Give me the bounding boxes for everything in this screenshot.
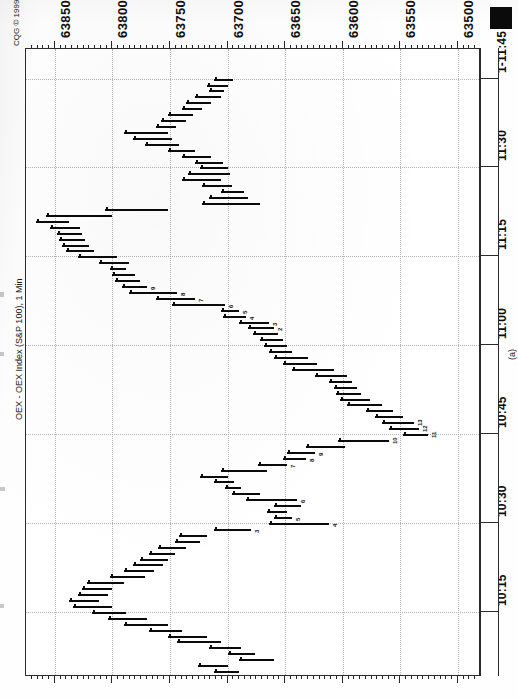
price-tick-minor (267, 45, 268, 48)
bottom-tick-major (342, 676, 343, 683)
price-tick-label: 63550 (404, 0, 417, 38)
price-bar (78, 594, 108, 596)
price-bar (46, 215, 113, 217)
td-count-label: 9 (150, 287, 156, 290)
price-tick-minor (428, 45, 429, 48)
bottom-tick-minor (313, 676, 314, 679)
bottom-tick-minor (445, 676, 446, 679)
price-tick-minor (451, 45, 452, 48)
price-bar (221, 470, 267, 472)
price-bar (246, 499, 297, 501)
price-bar (158, 547, 186, 549)
price-bar (122, 286, 147, 288)
price-bar (82, 588, 112, 590)
price-tick-minor (278, 45, 279, 48)
gridline-price (112, 49, 113, 675)
price-bar (133, 564, 163, 566)
price-bar (175, 541, 200, 543)
price-tick-label: 63600 (347, 0, 360, 38)
price-bar-open-tick (169, 148, 171, 151)
bottom-tick-minor (88, 676, 89, 679)
bottom-tick-minor (123, 676, 124, 679)
price-bar (59, 239, 84, 241)
price-bar-open-tick (173, 302, 175, 305)
price-bar (161, 120, 186, 122)
price-bar-open-tick (157, 124, 159, 127)
registration-marker (490, 7, 512, 29)
bottom-tick-minor (221, 676, 222, 679)
gridline-price (343, 49, 344, 675)
td-count-label: 4 (332, 524, 338, 527)
price-bar-open-tick (51, 225, 53, 228)
price-bar (209, 197, 248, 199)
price-tick-major (169, 41, 170, 48)
bottom-tick-major (284, 676, 285, 683)
price-tick-minor (221, 45, 222, 48)
price-bar (168, 636, 207, 638)
td-count-label: 11 (431, 432, 437, 438)
price-bar (375, 416, 403, 418)
price-tick-minor (117, 45, 118, 48)
td-count-label: 10 (392, 437, 398, 444)
price-bar-open-tick (203, 201, 205, 204)
price-bar-open-tick (376, 414, 378, 417)
price-bar (389, 428, 419, 430)
price-tick-major (111, 41, 112, 48)
bottom-tick-minor (417, 676, 418, 679)
scan-artifact (0, 487, 5, 491)
price-tick-minor (106, 45, 107, 48)
price-bar-open-tick (169, 112, 171, 115)
price-tick-minor (175, 45, 176, 48)
price-bar-open-tick (74, 604, 76, 607)
price-bar-open-tick (210, 88, 212, 91)
bottom-tick-minor (238, 676, 239, 679)
bottom-tick-minor (255, 676, 256, 679)
price-tick-label: 63750 (174, 0, 187, 38)
price-bar (200, 167, 228, 169)
bottom-tick-minor (382, 676, 383, 679)
price-tick-minor (140, 45, 141, 48)
price-bar-open-tick (284, 361, 286, 364)
price-tick-minor (417, 45, 418, 48)
price-bar (274, 505, 302, 507)
price-bar-open-tick (261, 337, 263, 340)
price-tick-major (399, 41, 400, 48)
price-bar (62, 245, 90, 247)
price-tick-minor (146, 45, 147, 48)
price-bar (347, 404, 382, 406)
price-bar-open-tick (240, 320, 242, 323)
price-tick-minor (163, 45, 164, 48)
bottom-tick-minor (422, 676, 423, 679)
price-bar (214, 481, 235, 483)
bottom-tick-minor (42, 676, 43, 679)
bottom-tick-minor (348, 676, 349, 679)
price-tick-minor (71, 45, 72, 48)
price-bar-open-tick (275, 515, 277, 518)
price-tick-minor (186, 45, 187, 48)
bottom-tick-minor (301, 676, 302, 679)
price-tick-minor (388, 45, 389, 48)
price-bar (202, 203, 260, 205)
price-tick-minor (88, 45, 89, 48)
price-tick-minor (238, 45, 239, 48)
price-bar-open-tick (341, 397, 343, 400)
bottom-tick-minor (31, 676, 32, 679)
price-bar-open-tick (130, 290, 132, 293)
chart-page: CQG © 1999. OEX - OEX Index (S&P 100), 1… (0, 0, 518, 699)
gridline-price (55, 49, 56, 675)
price-tick-minor (152, 45, 153, 48)
price-tick-major (227, 41, 228, 48)
price-bar (221, 191, 244, 193)
bottom-tick-minor (250, 676, 251, 679)
price-tick-minor (411, 45, 412, 48)
time-axis-separator (481, 255, 498, 256)
price-bar (315, 375, 347, 377)
price-tick-major (284, 41, 285, 48)
price-tick-minor (192, 45, 193, 48)
price-bar-open-tick (88, 580, 90, 583)
price-tick-minor (232, 45, 233, 48)
bottom-tick-minor (192, 676, 193, 679)
price-bar-open-tick (275, 503, 277, 506)
price-tick-minor (198, 45, 199, 48)
price-tick-minor (209, 45, 210, 48)
